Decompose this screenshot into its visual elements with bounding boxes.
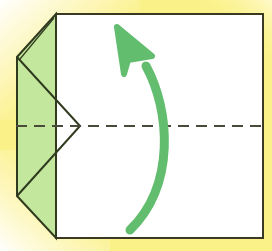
origami-diagram-canvas <box>0 0 272 251</box>
origami-diagram: Origami step diagram: valley fold upward… <box>0 0 272 251</box>
